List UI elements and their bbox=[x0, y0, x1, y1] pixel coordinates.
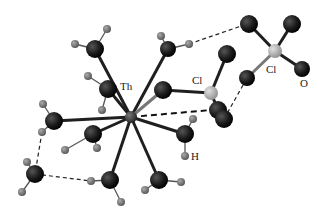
label-th: Th bbox=[120, 80, 133, 92]
label-h: H bbox=[191, 150, 199, 162]
th-perchlorate-contact bbox=[131, 110, 211, 117]
chlorine-outer bbox=[268, 44, 282, 58]
hbond bbox=[189, 24, 247, 44]
label-cl-inner: Cl bbox=[192, 74, 202, 86]
chlorine-inner bbox=[204, 86, 218, 100]
thorium-atom bbox=[125, 111, 137, 123]
label-o: O bbox=[300, 77, 308, 89]
molecular-structure-diagram: Th Cl Cl O H bbox=[0, 0, 326, 214]
cl-o-bonds bbox=[163, 24, 302, 110]
label-cl-outer: Cl bbox=[266, 63, 276, 75]
